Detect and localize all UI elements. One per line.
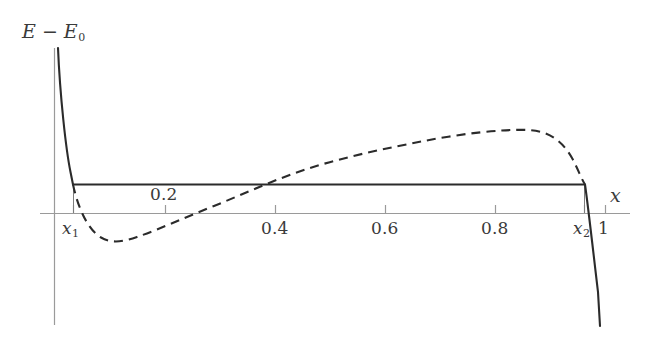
x1-subscript: 1 [72, 227, 80, 240]
free-energy-figure: E − E0 x x1 x2 0.2 0.4 0.6 0.8 1 [0, 0, 663, 351]
solid-right-branch [585, 185, 600, 327]
tick-label-0-6: 0.6 [371, 218, 399, 238]
y-axis-label: E − E0 [22, 20, 85, 44]
x2-subscript: 2 [583, 227, 591, 240]
tick-label-0-2: 0.2 [150, 184, 178, 204]
x1-base-text: x [62, 218, 72, 238]
tick-label-1: 1 [598, 218, 609, 238]
x2-base-text: x [573, 218, 583, 238]
y-axis-label-subscript: 0 [78, 31, 86, 44]
x-axis-ticks [74, 205, 606, 214]
solid-left-branch [58, 48, 73, 185]
y-axis-label-text: E − E [22, 20, 78, 42]
tick-label-0-8: 0.8 [481, 218, 509, 238]
x-axis-label: x [610, 184, 621, 206]
x2-tick-label: x2 [573, 218, 590, 240]
tick-label-0-4: 0.4 [261, 218, 289, 238]
plot-canvas [0, 0, 663, 351]
x1-tick-label: x1 [62, 218, 79, 240]
